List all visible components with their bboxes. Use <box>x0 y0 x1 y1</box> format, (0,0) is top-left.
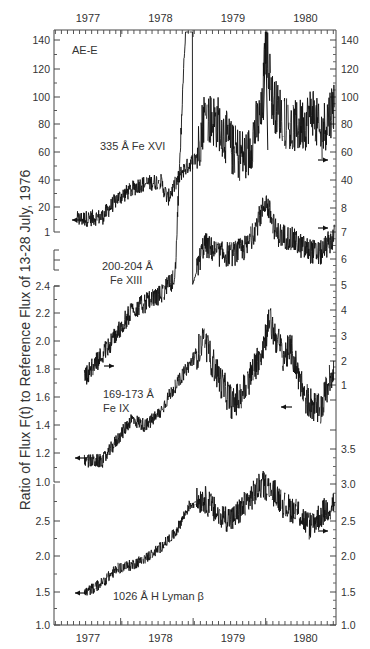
left-tick-label: 1.4 <box>35 419 50 431</box>
fe9-right-arrow-icon-head <box>281 405 286 410</box>
label-lyman-beta: 1026 Å H Lyman β <box>113 590 204 602</box>
left-tick-label: 2.0 <box>35 335 50 347</box>
label-fe9-line1: 169-173 Å <box>103 388 154 400</box>
bottom-year-label: 1978 <box>148 632 172 644</box>
right-tick-label: 80 <box>341 118 353 130</box>
series-line-0 <box>77 32 334 227</box>
left-tick-label: 2.0 <box>35 550 50 562</box>
right-tick-label: 5 <box>341 279 347 291</box>
fe13-right-arrow-icon-head <box>323 226 328 231</box>
fe16-left-arrow-icon-head <box>72 218 77 223</box>
right-tick-label: 60 <box>341 146 353 158</box>
left-tick-label: 2.2 <box>35 307 50 319</box>
fe13-left-arrow-icon-head <box>109 364 114 369</box>
left-tick-label: 100 <box>32 91 50 103</box>
bottom-year-label: 1979 <box>221 632 245 644</box>
fe16-right-arrow-icon-head <box>323 158 328 163</box>
right-tick-label: 1 <box>341 379 347 391</box>
top-year-label: 1978 <box>148 12 172 24</box>
left-tick-label: 1.8 <box>35 363 50 375</box>
left-tick-label: 140 <box>32 34 50 46</box>
right-tick-label: 3.0 <box>341 478 356 490</box>
left-tick-label: 40 <box>38 174 50 186</box>
left-tick-label: 60 <box>38 146 50 158</box>
right-tick-label: 1.5 <box>341 586 356 598</box>
label-fe16: 335 Å Fe XVI <box>100 140 165 152</box>
bottom-year-label: 1977 <box>76 632 100 644</box>
top-year-label: 1980 <box>293 12 317 24</box>
right-tick-label: 2 <box>341 355 347 367</box>
right-tick-label: 1.0 <box>341 619 356 631</box>
instrument-label: AE-E <box>72 44 98 56</box>
lyb-left-arrow-icon-head <box>75 591 80 596</box>
right-tick-label: 3 <box>341 330 347 342</box>
label-fe9-line2: Fe IX <box>103 402 130 414</box>
right-tick-label: 140 <box>341 34 359 46</box>
top-year-label: 1977 <box>76 12 100 24</box>
right-tick-label: 3.5 <box>341 443 356 455</box>
y-axis-title: Ratio of Flux F(t) to Reference Flux of … <box>17 170 33 511</box>
data-series <box>77 32 334 595</box>
chart-svg: 1977197719781978197919791980198014012010… <box>0 0 370 649</box>
left-tick-label: 1.0 <box>35 619 50 631</box>
left-tick-label: 1.6 <box>35 391 50 403</box>
fe9-left-arrow-icon-head <box>75 456 80 461</box>
right-tick-label: 2.0 <box>341 550 356 562</box>
right-tick-label: 40 <box>341 174 353 186</box>
right-tick-label: 6 <box>341 253 347 265</box>
figure: 1977197719781978197919791980198014012010… <box>0 0 370 649</box>
right-tick-label: 7 <box>341 226 347 238</box>
top-year-label: 1979 <box>221 12 245 24</box>
left-tick-label: 1.2 <box>35 447 50 459</box>
left-tick-label: 20 <box>38 201 50 213</box>
bottom-year-label: 1980 <box>293 632 317 644</box>
label-fe13-line1: 200-204 Å <box>102 260 153 272</box>
left-tick-label: 120 <box>32 63 50 75</box>
lyb-right-arrow-icon-head <box>323 529 328 534</box>
left-tick-label: 1 <box>44 226 50 238</box>
left-tick-label: 80 <box>38 118 50 130</box>
right-tick-label: 100 <box>341 91 359 103</box>
label-fe13-line2: Fe XIII <box>110 274 142 286</box>
series-line-3 <box>84 471 334 595</box>
right-tick-label: 120 <box>341 63 359 75</box>
left-tick-label: 2.4 <box>35 280 50 292</box>
left-tick-label: 1.5 <box>35 586 50 598</box>
reference-arrows <box>72 158 328 596</box>
right-tick-label: 4 <box>341 304 347 316</box>
right-tick-label: 8 <box>341 202 347 214</box>
left-tick-label: 1.0 <box>35 476 50 488</box>
right-tick-label: 2.5 <box>341 515 356 527</box>
series-line-1 <box>84 32 334 384</box>
left-tick-label: 2.5 <box>35 515 50 527</box>
